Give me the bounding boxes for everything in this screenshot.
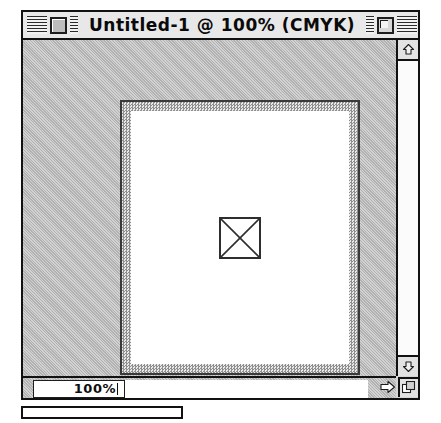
title-bar[interactable]: Untitled-1 @ 100% (CMYK) (23, 12, 418, 40)
title-bar-stripes-left (70, 16, 78, 34)
horizontal-scroll-track[interactable] (125, 380, 368, 398)
document-canvas-page[interactable] (131, 111, 349, 364)
size-right-arrow-icon[interactable] (379, 378, 397, 396)
vertical-scrollbar[interactable] (396, 40, 418, 376)
window-corner-controls (374, 376, 418, 398)
text-caret (117, 383, 118, 395)
close-box-icon[interactable] (50, 17, 67, 34)
title-bar-stripes-right (366, 16, 374, 34)
title-bar-pad-right (417, 25, 418, 26)
zoom-box-icon[interactable] (377, 17, 394, 34)
title-bar-stripes-far-left (27, 16, 47, 34)
document-canvas-frame (120, 100, 360, 375)
background-window-edge (21, 406, 183, 419)
zoom-percentage-field[interactable]: 100% (33, 380, 125, 398)
scroll-down-arrow-icon[interactable] (398, 356, 418, 376)
window-body: 100% (23, 40, 418, 398)
horizontal-scrollbar[interactable]: 100% (23, 376, 396, 398)
photoshop-document-window: Untitled-1 @ 100% (CMYK) (21, 10, 420, 400)
title-bar-stripes-far-right (397, 16, 417, 34)
grow-box-icon[interactable] (398, 377, 418, 397)
vertical-scroll-track[interactable] (398, 60, 418, 356)
x-box-placeholder-icon (219, 217, 261, 259)
pasteboard-area[interactable] (23, 40, 396, 376)
zoom-percentage-value: 100% (74, 382, 116, 396)
window-title: Untitled-1 @ 100% (CMYK) (78, 13, 366, 37)
screenshot-root: Untitled-1 @ 100% (CMYK) (0, 0, 441, 423)
scroll-up-arrow-icon[interactable] (398, 40, 418, 60)
